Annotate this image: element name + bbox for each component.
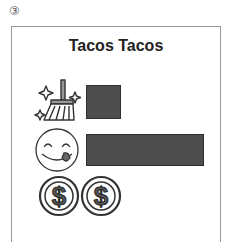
dollar-coin-icon: $: [80, 175, 122, 217]
chart-title: Tacos Tacos: [12, 37, 220, 55]
dollar-coin-icon: $: [38, 175, 80, 217]
bar-yummy: [86, 134, 204, 166]
svg-text:$: $: [52, 181, 67, 211]
svg-text:$: $: [94, 181, 109, 211]
figure-number: ③: [9, 4, 20, 18]
yum-face-icon: [34, 127, 80, 173]
broom-sparkles-icon: [34, 78, 84, 124]
bar-cleaning: [86, 85, 121, 119]
